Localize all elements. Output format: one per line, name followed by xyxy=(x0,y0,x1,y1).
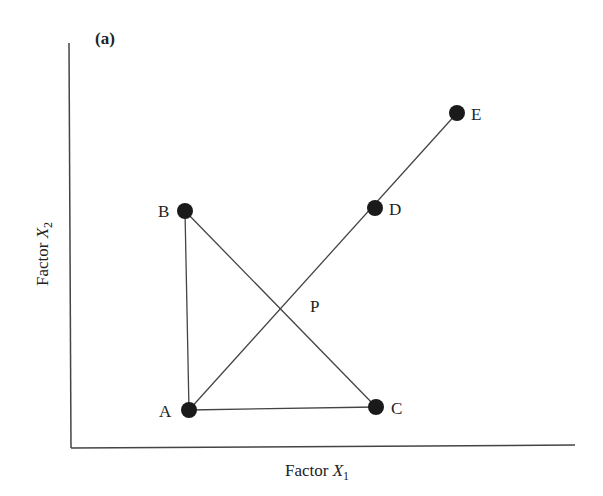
label-a: A xyxy=(159,402,172,421)
point-b xyxy=(177,203,193,219)
x-axis xyxy=(71,445,575,448)
label-d: D xyxy=(389,200,401,219)
y-axis-title: Factor X2 xyxy=(33,222,55,286)
segment-a-e xyxy=(189,113,457,410)
label-p: P xyxy=(310,297,319,316)
x-axis-title: Factor X1 xyxy=(285,461,349,483)
point-d xyxy=(367,200,383,216)
point-e xyxy=(449,105,465,121)
label-e: E xyxy=(471,105,481,124)
segment-a-b xyxy=(185,211,189,410)
label-b: B xyxy=(158,202,169,221)
y-axis xyxy=(69,43,71,448)
point-a xyxy=(181,402,197,418)
segment-a-c xyxy=(189,407,376,410)
label-c: C xyxy=(391,399,402,418)
point-c xyxy=(368,399,384,415)
panel-label: (a) xyxy=(95,29,115,48)
diagram-canvas: (a) A B C D E P Factor X1 Factor X2 xyxy=(0,0,603,496)
